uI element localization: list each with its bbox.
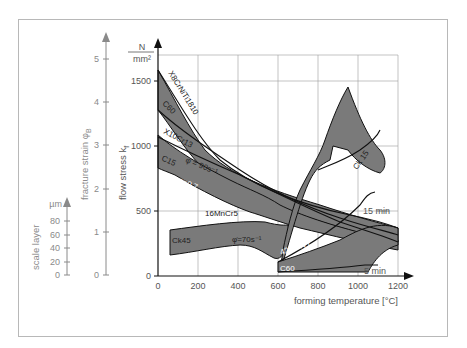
phi-tick-5: 5 [94,54,99,64]
y-axis-arrow-icon [154,38,162,48]
x-axis-arrow-icon [404,272,414,280]
y-axis-title: flow stress kf [117,146,130,200]
scale-unit: µm [49,199,62,209]
scale-tick-20: 20 [50,257,60,267]
phi-tick-3: 3 [94,140,99,150]
x-tick-400: 400 [230,281,245,291]
label-5min: 5 min [364,266,386,276]
x-tick-1200: 1200 [388,281,408,291]
fracture-strain-axis [103,40,109,275]
label-c60-scale: C60 [280,264,295,273]
y-tick-1000: 1000 [131,141,151,151]
scale-axis-title: scale layer [30,225,41,270]
fracture-axis-arrow-icon [102,32,110,42]
scale-tick-80: 80 [50,216,60,226]
x-tick-0: 0 [155,281,160,291]
x-tick-600: 600 [270,281,285,291]
label-16mncr5: 16MnCr5 [205,209,238,218]
y-tick-1500: 1500 [131,76,151,86]
phi-tick-0: 0 [94,270,99,280]
x-tick-200: 200 [190,281,205,291]
x-tick-800: 800 [310,281,325,291]
phi-tick-2: 2 [94,184,99,194]
scale-tick-40: 40 [50,243,60,253]
x-axis-title: forming temperature [°C] [294,295,398,306]
y-unit-mm: mm² [133,54,151,64]
y-unit-n: N [139,42,146,52]
y-tick-0: 0 [146,271,151,281]
scale-tick-0: 0 [55,270,60,280]
fracture-axis-title: fracture strain φB [79,128,92,200]
label-phi70: φ̇=70s⁻¹ [232,235,262,244]
phi-tick-4: 4 [94,97,99,107]
phi-tick-1: 1 [94,227,99,237]
y-tick-500: 500 [136,206,151,216]
scale-layer-axis [64,204,70,275]
chart-svg: 1500 1000 500 0 0 200 400 600 800 1000 1… [0,0,467,348]
label-ck45: Ck45 [172,236,191,245]
scale-tick-60: 60 [50,230,60,240]
x-tick-1000: 1000 [348,281,368,291]
scale-axis-arrow-icon [63,197,71,207]
